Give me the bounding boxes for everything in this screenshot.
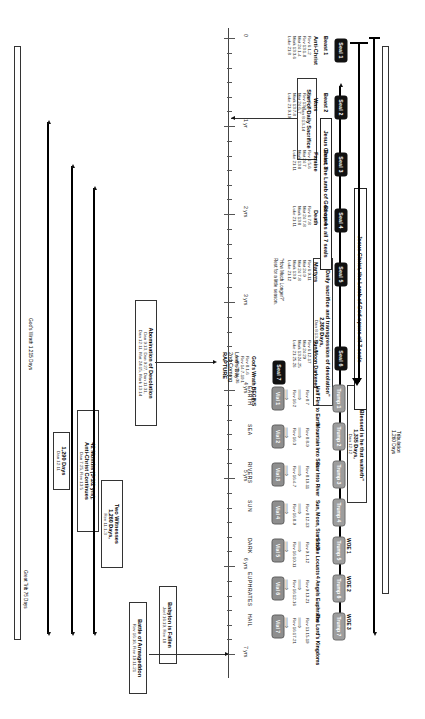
- tribulation-title: Tribulation: [396, 431, 401, 453]
- ref: Luke 21:8: [287, 36, 292, 55]
- vial-pill-1[interactable]: Vial 1: [272, 387, 285, 411]
- seal-pill-2[interactable]: Seal 2: [335, 96, 348, 120]
- seal-refs-5e: Luke 21:12: [287, 260, 292, 281]
- ref: Luke 21:9-10: [287, 93, 292, 118]
- ref: Rev 13:7: [302, 93, 307, 110]
- axis-label-7: 7 yrs: [243, 646, 249, 657]
- days-1290-box: 1,290 Days Dan 12:11: [53, 432, 70, 490]
- axis-minor-tick: [227, 493, 232, 494]
- blessed-title: "Blessed is he that waiteth": [360, 407, 366, 481]
- vial-ref-5: Rev 16:10-11: [292, 542, 297, 567]
- ref: Rev 6:3-4: [307, 93, 312, 112]
- axis-minor-tick: [227, 156, 232, 157]
- seal-event-1: Anti-Christ: [313, 36, 319, 65]
- trumpet-pill-5[interactable]: Trump 5: [333, 537, 346, 565]
- ref: Rev 6:1-2: [307, 36, 312, 55]
- axis-label-1: 1 yr: [243, 119, 249, 128]
- armageddon-title: Battle of Armageddon: [138, 619, 144, 677]
- daily-sacrifice-quote-title: "Daily sacrifice and transgression of de…: [326, 267, 332, 396]
- days-1290-span-bar: [47, 122, 49, 634]
- axis-tick-0: [224, 38, 235, 39]
- vial-pill-3[interactable]: Vial 3: [272, 463, 285, 487]
- ref: Mark 13:8: [297, 206, 302, 225]
- vial-pill-6[interactable]: Vial 6: [272, 577, 285, 601]
- axis-minor-tick: [227, 229, 232, 230]
- two-witnesses-ref: Rev 11:1-3: [104, 513, 109, 534]
- months-42-arrowhead-right: [71, 632, 75, 636]
- vial-ref-3: Rev 16:4-7: [292, 466, 297, 487]
- trumpet-ref-3: Rev 8:10-11: [305, 466, 310, 489]
- blessed-ref: Dan 12:12: [349, 434, 354, 454]
- rapture-line1: Lord's Day: [234, 352, 240, 379]
- ref: Luke 21:25-26: [292, 340, 297, 367]
- seal-event-2: Wars: [313, 98, 319, 111]
- vial-pill-7[interactable]: Vial 7: [272, 615, 285, 639]
- axis-tick-2: [224, 214, 235, 215]
- seal-refs-7a: Rev 8:1-6: [245, 356, 250, 375]
- ref: Rev 6:9-11: [307, 260, 312, 281]
- vial-pill-4[interactable]: Vial 4: [272, 501, 285, 525]
- ref: Mark 13:9: [292, 260, 297, 279]
- trumpet-pill-7[interactable]: Trump 7: [333, 613, 346, 641]
- seal-refs-3c: Mark 13:8: [297, 150, 302, 169]
- axis-label-3: 3 yrs: [243, 294, 249, 305]
- axis-minor-tick: [227, 141, 232, 142]
- great-tribulation-title: Great Trib: [23, 570, 28, 590]
- daily-sacrifice-2300-arrowhead-left: [339, 83, 343, 87]
- seal-5-note-line2: Rest for a little season.: [273, 258, 279, 305]
- two-witnesses-span-bar: [93, 188, 95, 634]
- lamb-of-god-spine-arrowhead: [352, 378, 362, 386]
- seal-pill-6[interactable]: Seal 6: [335, 347, 348, 371]
- months-42-ref: Dan 7:25, Rev 13:5: [80, 452, 85, 490]
- axis-minor-tick: [227, 639, 232, 640]
- trumpet-ref-4: Rev 8:12-13: [305, 504, 310, 527]
- months-42-arrowhead-left: [71, 164, 75, 168]
- two-witnesses-days: 1,260 Days,: [109, 509, 115, 538]
- axis-minor-tick: [227, 97, 232, 98]
- trumpet-pill-3[interactable]: Trump 3: [333, 461, 346, 489]
- axis-minor-tick: [227, 273, 232, 274]
- armageddon-to-axis: [149, 654, 227, 655]
- seal-refs-2d: Mark 13:7-8: [292, 93, 297, 116]
- trumpet-pill-4[interactable]: Trump 4: [333, 499, 346, 527]
- vial-target-5: DARK: [247, 538, 253, 554]
- seal-pill-1[interactable]: Seal 1: [335, 39, 348, 63]
- ref: Mat 24:6-7: [297, 93, 302, 114]
- seal-refs-1e: Luke 21:8: [287, 36, 292, 55]
- woe-label-2: WOE 2: [346, 576, 351, 592]
- abomination-arrowhead: [213, 360, 217, 364]
- ref: Mark 13:24-25: [297, 340, 302, 368]
- seal-pill-7[interactable]: Seal 7: [273, 361, 286, 385]
- trumpet-pill-1[interactable]: Trump 1: [333, 385, 346, 413]
- seal-refs-5c: Mat 24:7-8: [297, 260, 302, 281]
- axis-label-6: 6 yrs: [243, 558, 249, 569]
- seal-refs-4c: Mark 13:8: [297, 206, 302, 225]
- seal-refs-3a: Rev 6:5-6: [307, 150, 312, 169]
- great-tribulation-days: 75 Days: [23, 592, 28, 609]
- lamb-of-god-spine-line: [358, 42, 360, 382]
- vial-pill-5[interactable]: Vial 5: [272, 539, 285, 563]
- seal-refs-5b: Mat 24:9: [302, 260, 307, 277]
- seal-refs-7b: Rev 14:7-10:1: [240, 356, 245, 383]
- beast-label-3: Beast 3: [323, 150, 329, 169]
- seal-refs-3b: Mat 24:7: [302, 150, 307, 167]
- axis-label-0: 0: [243, 34, 249, 37]
- axis-minor-tick: [227, 625, 232, 626]
- axis-minor-tick: [227, 405, 232, 406]
- axis-minor-tick: [227, 244, 232, 245]
- vial-pill-2[interactable]: Vial 2: [272, 425, 285, 449]
- trumpet-pill-2[interactable]: Trump 2: [333, 423, 346, 451]
- ref: Rev 14:7-10:1: [240, 356, 245, 383]
- seal-pill-5[interactable]: Seal 5: [335, 263, 348, 287]
- ref: Mat 24:29: [302, 340, 307, 359]
- seal-pill-3[interactable]: Seal 3: [335, 153, 348, 177]
- gods-wrath-span-bar: [14, 46, 21, 640]
- chart-canvas: 0 1 yr 2 yrs 3 yrs 4 yrs 5 yrs 6 yrs 7 y…: [0, 0, 425, 719]
- two-witnesses-arrowhead-left: [93, 186, 97, 190]
- trumpet-ref-6: Rev 9:13-21: [305, 580, 310, 603]
- seal-pill-4[interactable]: Seal 4: [335, 209, 348, 233]
- ref: Luke 21:11: [292, 150, 297, 171]
- babylon-ref: Joel 16:19, Rev 18: [163, 607, 168, 644]
- seal-5-note-line1: "How Much Longer?": [279, 258, 285, 301]
- trumpet-pill-6[interactable]: Trump 6: [333, 575, 346, 603]
